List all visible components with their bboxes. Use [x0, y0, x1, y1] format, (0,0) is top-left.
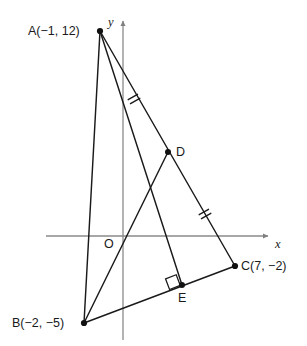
- segments-group: [84, 31, 235, 323]
- tick-marks-ad-icon: [128, 94, 140, 103]
- x-axis-label: x: [275, 238, 281, 251]
- point-c-dot: [232, 263, 238, 269]
- point-d-label: D: [176, 146, 185, 159]
- point-d-dot: [165, 149, 171, 155]
- segment-ac: [100, 31, 235, 266]
- point-b-dot: [81, 320, 87, 326]
- point-c-label: C(7, −2): [241, 260, 287, 273]
- geometry-canvas: [0, 0, 307, 346]
- point-b-label: B(−2, −5): [12, 317, 64, 330]
- segment-bc: [84, 266, 235, 323]
- y-axis-label: y: [108, 16, 114, 29]
- segment-ab: [84, 31, 100, 323]
- origin-label: O: [104, 238, 114, 251]
- point-e-dot: [179, 282, 185, 288]
- point-a-label: A(−1, 12): [28, 25, 80, 38]
- point-e-label: E: [178, 292, 186, 305]
- geometry-figure: A(−1, 12) B(−2, −5) C(7, −2) D E O x y: [0, 0, 307, 346]
- axes-group: [46, 21, 268, 340]
- point-a-dot: [97, 28, 103, 34]
- segment-bd-median: [84, 152, 168, 323]
